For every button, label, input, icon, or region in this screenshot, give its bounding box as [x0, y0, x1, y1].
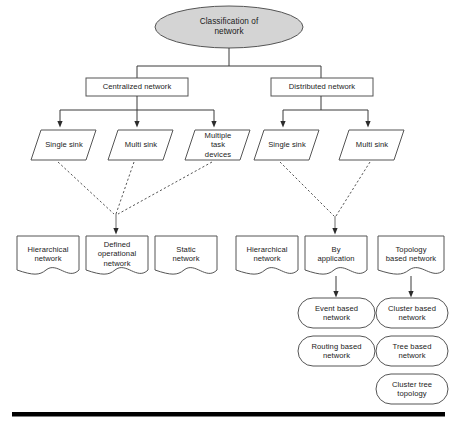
node-event-based-shape [298, 298, 375, 328]
connector-dashed-c-multi-sink [116, 162, 134, 214]
node-c-multiple-task-shape [185, 130, 250, 160]
node-cluster-based-shape [376, 298, 448, 328]
diagram-shapes-layer [0, 0, 458, 429]
node-root-shape [155, 6, 303, 48]
node-d-multi-sink-shape [339, 130, 404, 160]
node-c-single-sink-shape [31, 130, 96, 160]
node-d-single-sink-shape [254, 130, 319, 160]
connector-dashed-c-single-sink [58, 162, 114, 214]
node-d-by-application-shape [305, 236, 367, 274]
node-c-hierarchical-shape [17, 236, 79, 274]
node-centralized-shape [86, 78, 188, 96]
diagram-canvas: Classification of network Centralized ne… [0, 0, 458, 429]
node-routing-based-shape [298, 336, 375, 366]
node-cluster-tree-shape [376, 374, 448, 404]
node-c-defined-operational-shape [86, 236, 148, 274]
horizontal-rule [12, 412, 445, 417]
node-d-topology-based-shape [378, 236, 444, 274]
connector-dashed-d-single-sink [280, 162, 334, 216]
node-distributed-shape [271, 78, 373, 96]
connector-dashed-c-multiple-task [118, 162, 212, 214]
connector-dashed-d-multi-sink [336, 162, 370, 216]
node-d-hierarchical-shape [236, 236, 298, 274]
node-c-static-shape [155, 236, 217, 274]
node-tree-based-shape [376, 336, 448, 366]
node-c-multi-sink-shape [108, 130, 173, 160]
